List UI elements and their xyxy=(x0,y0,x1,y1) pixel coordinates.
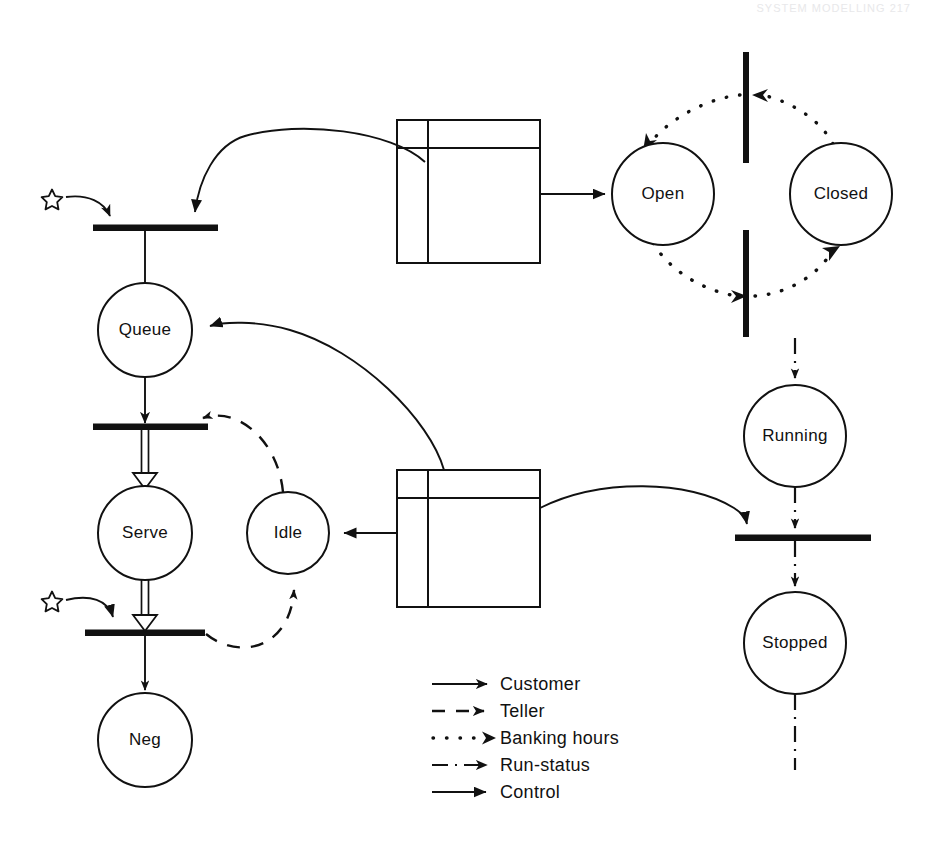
module-hours[interactable] xyxy=(397,120,540,263)
place-open[interactable]: Open xyxy=(612,143,714,245)
arc-teller-source-to-end xyxy=(66,598,113,617)
arc-closed-to-open-transition xyxy=(762,95,833,144)
place-stopped-label: Stopped xyxy=(762,633,827,652)
place-neg[interactable]: Neg xyxy=(98,693,192,787)
transition-begin-serve[interactable] xyxy=(93,424,208,431)
legend-item-banking-hours: Banking hours xyxy=(433,728,619,748)
transition-close[interactable] xyxy=(743,230,749,337)
place-idle[interactable]: Idle xyxy=(247,492,329,574)
legend-item-control: Control xyxy=(432,782,560,802)
arc-close-to-closed xyxy=(755,250,833,296)
token-customer-source-icon xyxy=(42,190,63,210)
legend-control-label: Control xyxy=(500,782,560,802)
arc-open-transition-to-open xyxy=(650,95,740,143)
legend-item-teller: Teller xyxy=(432,701,545,721)
arc-close-to-closed-arrowhead xyxy=(822,246,840,261)
legend-teller-label: Teller xyxy=(500,701,545,721)
arc-closed-to-open-arrowhead xyxy=(752,89,768,102)
place-stopped[interactable]: Stopped xyxy=(744,592,846,694)
legend-banking-hours-arrowhead xyxy=(482,732,496,745)
legend-banking-hours-label: Banking hours xyxy=(500,728,619,748)
legend-customer-label: Customer xyxy=(500,674,580,694)
place-running-label: Running xyxy=(762,426,827,445)
place-closed[interactable]: Closed xyxy=(790,143,892,245)
place-running[interactable]: Running xyxy=(744,385,846,487)
arc-end-to-idle xyxy=(206,590,294,647)
legend: Customer Teller Banking hours Run-status… xyxy=(432,674,619,802)
legend-item-run-status: Run-status xyxy=(432,755,590,775)
place-serve[interactable]: Serve xyxy=(98,486,192,580)
arc-idle-to-begin xyxy=(203,416,283,492)
place-queue-label: Queue xyxy=(119,320,172,339)
place-neg-label: Neg xyxy=(129,730,161,749)
transition-open[interactable] xyxy=(743,52,749,163)
place-queue[interactable]: Queue xyxy=(98,283,192,377)
legend-run-status-label: Run-status xyxy=(500,755,590,775)
arc-serve-to-end xyxy=(133,580,157,631)
module-teller[interactable] xyxy=(397,470,540,607)
diagram-canvas: SYSTEM MODELLING 217 xyxy=(0,0,925,847)
petri-net-diagram: Queue Serve Neg Idle Open Closed Running xyxy=(0,0,925,847)
transition-arrive[interactable] xyxy=(93,225,218,232)
arc-hours-to-arrive xyxy=(195,129,425,212)
arc-begin-to-serve xyxy=(133,430,157,489)
legend-item-customer: Customer xyxy=(432,674,580,694)
token-teller-source-icon xyxy=(42,592,63,612)
transition-stop[interactable] xyxy=(735,535,871,542)
place-idle-label: Idle xyxy=(274,523,303,542)
arc-open-to-close xyxy=(653,243,737,296)
arc-customer-source-to-arrive xyxy=(66,196,110,216)
place-serve-label: Serve xyxy=(122,523,168,542)
arc-teller-module-to-queue xyxy=(210,323,444,470)
arc-teller-module-to-stop xyxy=(540,486,747,524)
place-closed-label: Closed xyxy=(814,184,869,203)
place-open-label: Open xyxy=(642,184,685,203)
